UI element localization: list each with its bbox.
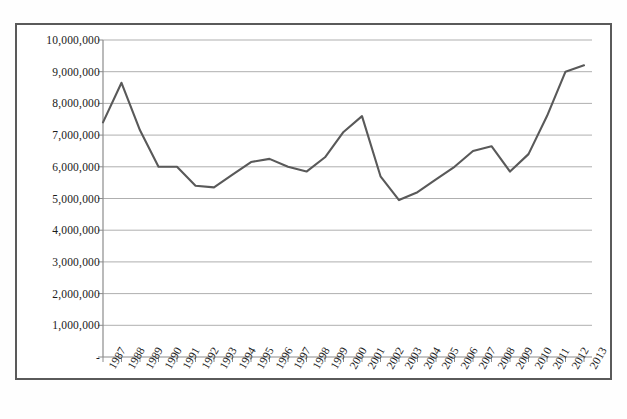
x-tick-label: 2004: [421, 345, 443, 371]
x-tick-label: 2012: [569, 345, 591, 371]
x-axis-tick-labels: 1987198819891990199119921993199419951996…: [0, 0, 627, 419]
x-tick-label: 2002: [384, 345, 406, 371]
x-tick-label: 2009: [513, 345, 535, 371]
x-tick-label: 1998: [310, 345, 332, 371]
x-tick-label: 2001: [365, 345, 387, 371]
x-tick-label: 2013: [587, 345, 609, 371]
x-tick-label: 1993: [217, 345, 239, 371]
x-tick-label: 1999: [328, 345, 350, 371]
x-tick-label: 2008: [495, 345, 517, 371]
x-tick-label: 1990: [162, 345, 184, 371]
x-tick-label: 2007: [476, 345, 498, 371]
x-tick-label: 2003: [402, 345, 424, 371]
x-tick-label: 1997: [291, 345, 313, 371]
x-tick-label: 1987: [106, 345, 128, 371]
x-tick-label: 1989: [143, 345, 165, 371]
x-tick-label: 2006: [458, 345, 480, 371]
x-tick-label: 1992: [199, 345, 221, 371]
x-tick-label: 1988: [125, 345, 147, 371]
x-tick-label: 2010: [532, 345, 554, 371]
x-tick-label: 2000: [347, 345, 369, 371]
chart-figure: -1,000,0002,000,0003,000,0004,000,0005,0…: [0, 0, 627, 419]
x-tick-label: 2011: [550, 345, 572, 371]
x-tick-label: 1991: [180, 345, 202, 371]
x-tick-label: 1996: [273, 345, 295, 371]
x-tick-label: 1994: [236, 345, 258, 371]
x-tick-label: 1995: [254, 345, 276, 371]
x-tick-label: 2005: [439, 345, 461, 371]
